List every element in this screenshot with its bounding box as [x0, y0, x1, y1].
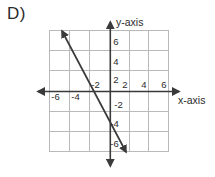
x-tick-label: -4: [69, 92, 82, 102]
x-tick-label: -2: [89, 80, 102, 90]
y-tick-label: -2: [112, 100, 125, 110]
x-axis-label: x-axis: [178, 95, 205, 106]
y-axis-label: y-axis: [116, 17, 143, 28]
coordinate-plane-graph: [0, 0, 215, 177]
x-tick-label: 2: [121, 80, 129, 90]
y-tick-label: -4: [108, 119, 121, 129]
x-tick-label: 4: [140, 80, 148, 90]
x-tick-label: 6: [160, 80, 168, 90]
y-tick-label: -6: [108, 139, 121, 149]
y-tick-label: 6: [112, 37, 120, 47]
multiple-choice-graph-figure: D): [0, 0, 215, 177]
y-tick-label: 2: [112, 75, 120, 85]
y-tick-label: 4: [112, 57, 120, 67]
x-tick-label: -6: [49, 92, 62, 102]
